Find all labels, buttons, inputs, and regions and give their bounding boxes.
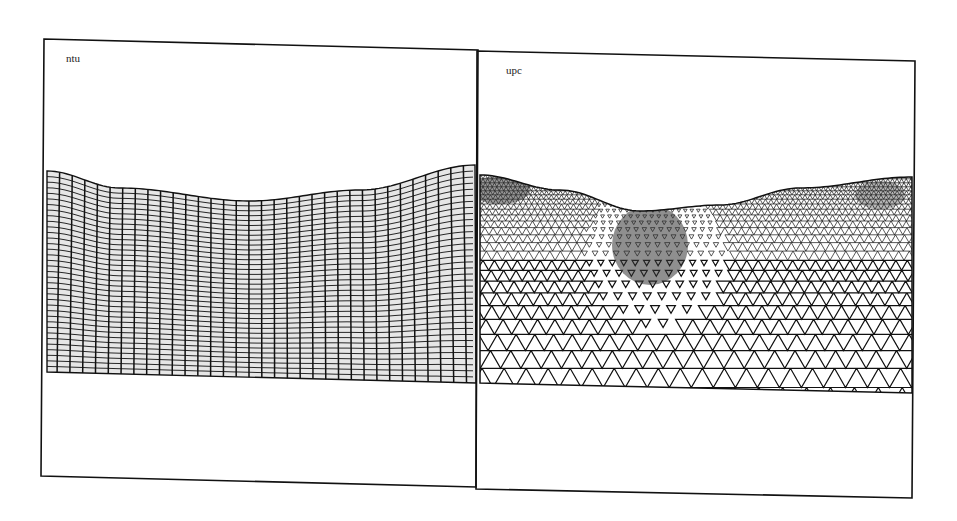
panel-ntu <box>41 39 478 487</box>
panel-label-ntu: ntu <box>66 52 80 64</box>
quad-mesh <box>47 165 476 383</box>
panel-upc <box>460 51 953 498</box>
triangle-mesh <box>460 171 953 431</box>
panel-label-upc: upc <box>506 64 522 76</box>
mesh-comparison-figure <box>0 0 957 521</box>
